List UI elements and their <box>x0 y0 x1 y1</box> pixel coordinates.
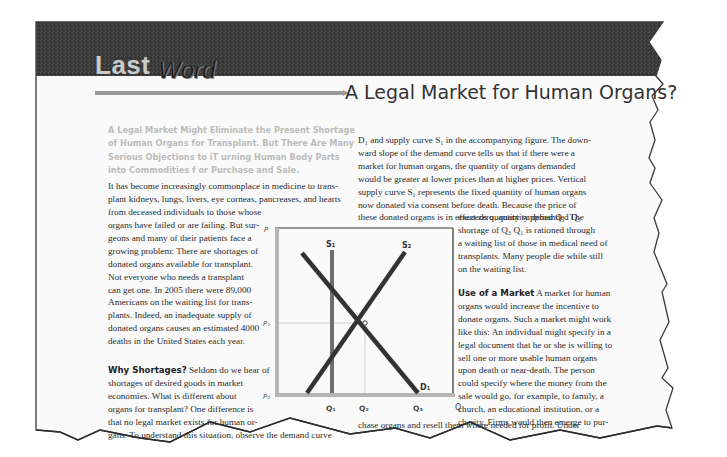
body-line: could specify where the money from the <box>458 377 612 390</box>
tick-p1: P₁ <box>263 320 270 328</box>
section-heading-use-of-market: Use of a Market <box>458 288 534 298</box>
supply-demand-figure: P P₁ P₀ Q Q₁ Q₂ Q₃ S₁ S₂ D₁ <box>262 222 462 417</box>
body-line: geons and many of their patients face a <box>108 232 259 245</box>
left-column-wrapped: organs have failed or are failing. But s… <box>108 219 259 348</box>
article-title: A Legal Market for Human Organs? <box>345 80 677 104</box>
body-line: market for human organs, the quantity of… <box>358 160 591 173</box>
body-line: plant kidneys, lungs, livers, eye cornea… <box>108 193 341 206</box>
body-line: chase organs and resell them where neede… <box>358 419 580 432</box>
subhead-line: Serious Objections to iT urning Human Bo… <box>108 151 360 164</box>
title-rule <box>95 91 345 95</box>
section-heading-why-shortages: Why Shortages? <box>108 365 187 375</box>
body-line: donated organs available for transplant. <box>108 258 259 271</box>
body-line: plants. Indeed, an inadequate supply of <box>108 309 259 322</box>
body-line: Not everyone who needs a transplant <box>108 271 259 284</box>
tick-q2: Q₂ <box>359 404 369 413</box>
subhead: A Legal Market Might Eliminate the Prese… <box>108 124 360 177</box>
body-line: supply curve S₁ represents the fixed qua… <box>358 186 591 199</box>
body-line: can get one. In 2005 there were 89,000 <box>108 284 259 297</box>
body-line: now donated via consent before death. Be… <box>358 199 591 212</box>
label-d1: D₁ <box>420 383 431 392</box>
subhead-line: of Human Organs for Transplant. But Ther… <box>108 137 360 150</box>
body-line: ward slope of the demand curve tells us … <box>358 147 591 160</box>
body-line: D₁ and supply curve S₁ in the accompanyi… <box>358 134 591 147</box>
subhead-line: into Commodities f or Purchase and Sale. <box>108 164 360 177</box>
kicker-last: Last <box>95 52 150 78</box>
body-line: upon death or near-death. The person <box>458 364 612 377</box>
body-line: like this: An individual might specify i… <box>458 326 612 339</box>
body-line: organs would increase the incentive to <box>458 300 612 313</box>
left-column-intro: It has become increasingly commonplace i… <box>108 180 341 219</box>
body-line: transplants. Many people die while still <box>458 250 608 263</box>
body-line: would be greater at lower prices than at… <box>358 173 591 186</box>
body-line: from deceased individuals to those whose <box>108 206 341 219</box>
body-line: donated organs causes an estimated 4000 <box>108 322 259 335</box>
body-line: shortage of Q₃ Q₁ is rationed through <box>458 224 608 237</box>
tick-p0: P₀ <box>263 393 270 401</box>
body-line: growing problem: There are shortages of <box>108 245 259 258</box>
body-line: deaths in the United States each year. <box>108 335 259 348</box>
body-line: a waiting list of those in medical need … <box>458 237 608 250</box>
body-line: that no legal market exists for human or… <box>108 416 332 429</box>
tick-q3: Q₃ <box>413 404 423 413</box>
body-line: exceeds quantity supplied Q₁. The <box>458 211 608 224</box>
right-column-wrapped: exceeds quantity supplied Q₁. The shorta… <box>458 211 608 276</box>
kicker-word: Word <box>158 58 215 82</box>
label-s1: S₁ <box>326 240 336 249</box>
right-column-section: Use of a Market A market for human organ… <box>458 287 612 429</box>
body-line: sell one or more usable human organs <box>458 352 612 365</box>
label-s2: S₂ <box>402 241 412 250</box>
body-line: gans. To understand this situation, obse… <box>108 429 332 442</box>
body-line: Americans on the waiting list for trans- <box>108 296 259 309</box>
body-line: donate organs. Such a market might work <box>458 313 612 326</box>
x-axis-label: Q <box>455 403 461 412</box>
body-line: sale would go, for example, to family, a <box>458 390 612 403</box>
subhead-line: A Legal Market Might Eliminate the Prese… <box>108 124 360 137</box>
body-line: church, an educational institution, or a <box>458 403 612 416</box>
body-line: on the waiting list. <box>458 263 608 276</box>
equilibrium-point <box>363 321 367 325</box>
body-line: A market for human <box>534 288 610 298</box>
right-column-bottom: chase organs and resell them where neede… <box>358 419 580 432</box>
body-line: organs have failed or are failing. But s… <box>108 219 259 232</box>
body-line: Seldom do we hear of <box>187 365 270 375</box>
body-line: It has become increasingly commonplace i… <box>108 180 341 193</box>
body-line: legal document that he or she is willing… <box>458 339 612 352</box>
y-axis-label: P <box>264 226 269 234</box>
tick-q1: Q₁ <box>326 404 336 413</box>
